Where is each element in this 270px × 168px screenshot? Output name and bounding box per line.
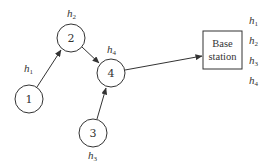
node-1-h-label: h1 [24,62,34,76]
node-4-label: 4 [108,67,115,80]
base-station-h-labels: h1 h2 h3 h4 [249,14,259,88]
bs-h4-label: h4 [249,74,259,88]
node-2-label: 2 [68,32,75,45]
edge-2-to-4 [82,47,99,63]
bs-h2-label: h2 [249,34,259,48]
node-4-h-label: h4 [107,43,117,57]
node-3: 3 h3 [79,119,107,163]
bs-h3-label: h3 [249,54,259,68]
node-3-h-label: h3 [88,149,98,163]
network-diagram: 1 h1 2 h2 4 h4 3 h3 Base station h1 h2 h… [0,0,270,168]
base-station-label-line1: Base [212,38,233,49]
edge-3-to-4 [97,88,106,119]
node-1: 1 h1 [15,62,43,113]
bs-h1-label: h1 [249,14,259,28]
base-station: Base station [203,31,242,69]
node-1-label: 1 [26,93,33,106]
edge-1-to-2 [37,50,61,87]
node-2-h-label: h2 [67,7,77,21]
node-4: 4 h4 [97,43,125,87]
base-station-label-line2: station [209,51,238,62]
edge-4-to-base-station [125,56,202,70]
node-3-label: 3 [90,127,97,140]
node-2: 2 h2 [57,7,85,52]
